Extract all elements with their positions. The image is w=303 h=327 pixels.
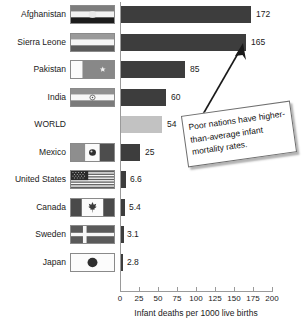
category-label-afghanistan: Afghanistan bbox=[0, 2, 66, 26]
bar-india bbox=[121, 89, 166, 106]
x-axis-title: Infant deaths per 1000 live births bbox=[120, 308, 272, 318]
value-label-japan: 2.8 bbox=[127, 250, 139, 274]
category-label-sweden: Sweden bbox=[0, 222, 66, 246]
category-label-world: WORLD bbox=[0, 112, 66, 136]
value-label-afghanistan: 172 bbox=[256, 2, 270, 26]
bar-japan bbox=[121, 254, 123, 271]
category-label-pakistan: Pakistan bbox=[0, 57, 66, 81]
chart-row: Canada 5.4 bbox=[0, 195, 303, 219]
chart-row: Sweden 3.1 bbox=[0, 222, 303, 246]
value-label-mexico: 25 bbox=[145, 140, 154, 164]
category-label-india: India bbox=[0, 85, 66, 109]
x-tick-50 bbox=[158, 287, 159, 292]
x-tick-75 bbox=[177, 287, 178, 292]
value-label-canada: 5.4 bbox=[129, 195, 141, 219]
value-label-united-states: 6.6 bbox=[130, 167, 142, 191]
chart-row: Japan 2.8 bbox=[0, 250, 303, 274]
category-label-united-states: United States bbox=[0, 167, 66, 191]
flag-india bbox=[70, 88, 115, 107]
flag-united-states bbox=[70, 170, 115, 189]
value-label-sweden: 3.1 bbox=[127, 222, 139, 246]
bar-world bbox=[121, 116, 162, 133]
bar-mexico bbox=[121, 144, 140, 161]
x-tick-125 bbox=[215, 287, 216, 292]
bar-afghanistan bbox=[121, 6, 251, 23]
category-label-sierra-leone: Sierra Leone bbox=[0, 30, 66, 54]
bar-sweden bbox=[121, 226, 124, 243]
flag-afghanistan bbox=[70, 5, 115, 24]
flag-sierra-leone bbox=[70, 33, 115, 52]
chart-row: Afghanistan 172 bbox=[0, 2, 303, 26]
annotation-callout-text: Poor nations have higher-than-average in… bbox=[188, 107, 292, 158]
flag-pakistan bbox=[70, 60, 115, 79]
value-axis-line bbox=[120, 2, 121, 291]
bar-pakistan bbox=[121, 61, 185, 78]
bar-united-states bbox=[121, 171, 126, 188]
flag-canada bbox=[70, 198, 115, 217]
flag-japan bbox=[70, 253, 115, 272]
category-label-mexico: Mexico bbox=[0, 140, 66, 164]
flag-mexico bbox=[70, 143, 115, 162]
x-tick-200 bbox=[272, 287, 273, 292]
x-tick-label-200: 200 bbox=[260, 294, 284, 303]
chart-row: United States bbox=[0, 167, 303, 191]
x-tick-0 bbox=[120, 287, 121, 292]
infant-mortality-bar-chart: Afghanistan 172 Sierra Leone 165 Pakista… bbox=[0, 0, 303, 327]
bar-canada bbox=[121, 199, 125, 216]
flag-sweden bbox=[70, 225, 115, 244]
category-label-canada: Canada bbox=[0, 195, 66, 219]
x-tick-175 bbox=[253, 287, 254, 292]
x-tick-25 bbox=[139, 287, 140, 292]
x-tick-100 bbox=[196, 287, 197, 292]
value-label-world: 54 bbox=[167, 112, 176, 136]
x-tick-150 bbox=[234, 287, 235, 292]
category-label-japan: Japan bbox=[0, 250, 66, 274]
